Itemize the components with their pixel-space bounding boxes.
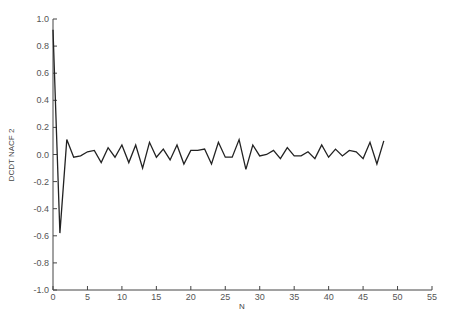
line-chart: 1.00.80.60.40.20.0-0.2-0.4-0.6-0.8-1.0 0… bbox=[0, 0, 453, 326]
y-tick-label: 1.0 bbox=[36, 14, 49, 24]
x-tick-label: 35 bbox=[289, 292, 299, 302]
y-tick-label: -0.4 bbox=[33, 204, 49, 214]
y-tick-label: 0.6 bbox=[36, 68, 49, 78]
y-tick-label: 0.8 bbox=[36, 41, 49, 51]
x-axis-ticks: 0510152025303540455055 bbox=[50, 286, 437, 302]
x-tick-label: 15 bbox=[151, 292, 161, 302]
y-tick-label: -0.2 bbox=[33, 177, 49, 187]
y-axis-title: DCDT NACF 2 bbox=[7, 128, 16, 181]
y-tick-label: 0.2 bbox=[36, 122, 49, 132]
y-tick-label: 0.4 bbox=[36, 95, 49, 105]
x-tick-label: 40 bbox=[324, 292, 334, 302]
x-tick-label: 55 bbox=[427, 292, 437, 302]
x-tick-label: 20 bbox=[186, 292, 196, 302]
x-tick-label: 45 bbox=[358, 292, 368, 302]
y-tick-label: -0.8 bbox=[33, 258, 49, 268]
x-tick-label: 25 bbox=[220, 292, 230, 302]
x-tick-label: 10 bbox=[117, 292, 127, 302]
x-axis-title: N bbox=[239, 302, 245, 311]
x-tick-label: 0 bbox=[50, 292, 55, 302]
x-tick-label: 5 bbox=[85, 292, 90, 302]
y-tick-label: -0.6 bbox=[33, 231, 49, 241]
x-tick-label: 30 bbox=[255, 292, 265, 302]
x-tick-label: 50 bbox=[393, 292, 403, 302]
y-tick-label: 0.0 bbox=[36, 150, 49, 160]
y-tick-label: -1.0 bbox=[33, 285, 49, 295]
data-series-line bbox=[53, 30, 384, 233]
